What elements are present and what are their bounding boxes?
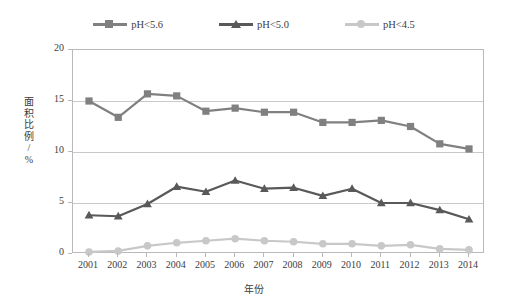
x-tick-mark bbox=[293, 253, 294, 257]
data-point bbox=[261, 237, 269, 245]
x-tick-mark bbox=[468, 253, 469, 257]
series-ph56 bbox=[85, 90, 472, 152]
y-axis-title-char: 比 bbox=[22, 119, 36, 131]
circle-icon bbox=[357, 20, 365, 28]
data-point bbox=[407, 241, 415, 249]
y-tick-mark bbox=[68, 253, 72, 254]
series-ph45 bbox=[85, 235, 473, 256]
data-point bbox=[144, 242, 152, 250]
x-tick-mark bbox=[234, 253, 235, 257]
data-point bbox=[85, 97, 92, 104]
data-point bbox=[144, 90, 151, 97]
y-axis-title: 面积比例/% bbox=[22, 96, 36, 165]
x-tick-mark bbox=[117, 253, 118, 257]
data-point bbox=[231, 235, 239, 243]
legend-item-ph45[interactable]: pH<4.5 bbox=[345, 18, 415, 30]
series-layer bbox=[73, 50, 485, 254]
square-icon bbox=[105, 20, 113, 28]
y-axis-title-char: 例 bbox=[22, 131, 36, 143]
legend-item-ph56[interactable]: pH<5.6 bbox=[93, 18, 163, 30]
triangle-icon bbox=[231, 20, 241, 28]
y-tick-label: 20 bbox=[38, 42, 64, 53]
data-point bbox=[114, 247, 122, 255]
data-point bbox=[436, 245, 444, 253]
data-point bbox=[378, 117, 385, 124]
chart-legend: pH<5.6 pH<5.0 pH<4.5 bbox=[0, 14, 508, 34]
y-tick-label: 0 bbox=[38, 246, 64, 257]
data-point bbox=[436, 140, 443, 147]
data-point bbox=[290, 109, 297, 116]
x-tick-mark bbox=[351, 253, 352, 257]
acid-rain-area-line-chart: pH<5.6 pH<5.0 pH<4.5 面积比例/% 05101520 200… bbox=[0, 0, 508, 308]
x-tick-mark bbox=[176, 253, 177, 257]
y-axis-title-char: % bbox=[22, 154, 36, 166]
data-point bbox=[348, 240, 356, 248]
data-point bbox=[465, 246, 473, 254]
legend-symbol-ph56 bbox=[93, 18, 127, 30]
x-tick-mark bbox=[146, 253, 147, 257]
y-tick-label: 15 bbox=[38, 93, 64, 104]
series-line bbox=[89, 94, 469, 149]
data-point bbox=[319, 119, 326, 126]
data-point bbox=[202, 108, 209, 115]
data-point bbox=[465, 145, 472, 152]
x-tick-mark bbox=[205, 253, 206, 257]
data-point bbox=[348, 184, 357, 192]
legend-symbol-ph45 bbox=[345, 18, 379, 30]
x-tick-mark bbox=[263, 253, 264, 257]
y-axis-title-char: / bbox=[22, 142, 36, 154]
x-axis-title: 年份 bbox=[0, 281, 508, 296]
y-axis-title-char: 面 bbox=[22, 96, 36, 108]
data-point bbox=[348, 119, 355, 126]
data-point bbox=[319, 240, 327, 248]
x-tick-mark bbox=[380, 253, 381, 257]
y-tick-label: 5 bbox=[38, 195, 64, 206]
data-point bbox=[378, 242, 386, 250]
plot-area bbox=[72, 49, 484, 253]
x-tick-mark bbox=[439, 253, 440, 257]
data-point bbox=[173, 92, 180, 99]
legend-item-ph50[interactable]: pH<5.0 bbox=[219, 18, 289, 30]
data-point bbox=[172, 182, 181, 190]
data-point bbox=[115, 114, 122, 121]
data-point bbox=[290, 238, 298, 246]
data-point bbox=[407, 123, 414, 130]
data-point bbox=[232, 105, 239, 112]
y-axis-title-char: 积 bbox=[22, 108, 36, 120]
x-tick-label: 2014 bbox=[448, 259, 488, 270]
data-point bbox=[173, 239, 181, 247]
data-point bbox=[231, 176, 240, 184]
data-point bbox=[202, 237, 210, 245]
legend-label-ph45: pH<4.5 bbox=[383, 19, 415, 30]
x-tick-mark bbox=[322, 253, 323, 257]
data-point bbox=[261, 109, 268, 116]
x-tick-mark bbox=[410, 253, 411, 257]
legend-label-ph50: pH<5.0 bbox=[257, 19, 289, 30]
legend-symbol-ph50 bbox=[219, 18, 253, 30]
data-point bbox=[85, 248, 93, 256]
y-tick-label: 10 bbox=[38, 144, 64, 155]
series-line bbox=[89, 181, 469, 220]
x-tick-mark bbox=[88, 253, 89, 257]
series-ph50 bbox=[85, 176, 474, 222]
legend-label-ph56: pH<5.6 bbox=[131, 19, 163, 30]
